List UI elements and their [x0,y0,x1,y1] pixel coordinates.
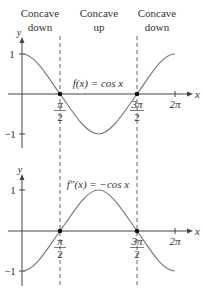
bottom-x-tick-2pi-label: 2π [169,235,181,247]
top-x-tick-3pi2-num: 3π [130,98,143,110]
top-x-tick-3pi2-den: 2 [134,111,140,123]
region-3-line2: down [145,21,170,33]
top-inflection-point-2 [135,92,140,97]
top-y-tick-label-neg1: −1 [4,128,16,140]
top-x-axis-arrow-icon [187,92,193,97]
region-3-line1: Concave [138,7,177,19]
bottom-zero-point-2 [135,229,140,234]
bottom-y-tick-label-1: 1 [10,184,16,196]
top-x-tick-2pi-label: 2π [169,98,181,110]
region-1-line2: down [28,21,53,33]
top-x-axis-label: x [194,88,200,100]
top-x-tick-pi2-den: 2 [57,111,63,123]
region-labels: Concave down Concave up Concave down [21,7,177,33]
bottom-x-tick-3pi2-den: 2 [134,248,140,260]
bottom-x-axis-label: x [194,225,200,237]
region-2-line1: Concave [80,7,119,19]
region-1-line1: Concave [21,7,60,19]
top-y-axis-label: y [16,27,22,38]
bottom-function-label: f″(x) = −cos x [67,178,130,191]
bottom-x-axis-arrow-icon [187,229,193,234]
top-y-tick-label-1: 1 [9,48,15,60]
bottom-y-axis-label: y [17,164,23,175]
bottom-y-tick-label-neg1: −1 [4,265,16,277]
region-2-line2: up [94,21,106,33]
bottom-x-tick-3pi2-num: 3π [130,235,143,247]
top-plot: x y 1 −1 π 2 3π 2 2π f(x) = cos x [4,27,200,148]
bottom-zero-point-1 [58,229,63,234]
bottom-plot: x y 1 −1 π 2 3π 2 2π f″(x) = −cos x [4,164,200,286]
bottom-x-tick-pi2-num: π [57,235,63,247]
bottom-x-tick-pi2-den: 2 [57,248,63,260]
top-x-tick-pi2-num: π [57,98,63,110]
concavity-diagram: Concave down Concave up Concave down x y… [0,0,203,299]
top-inflection-point-1 [58,92,63,97]
top-function-label: f(x) = cos x [73,77,124,90]
